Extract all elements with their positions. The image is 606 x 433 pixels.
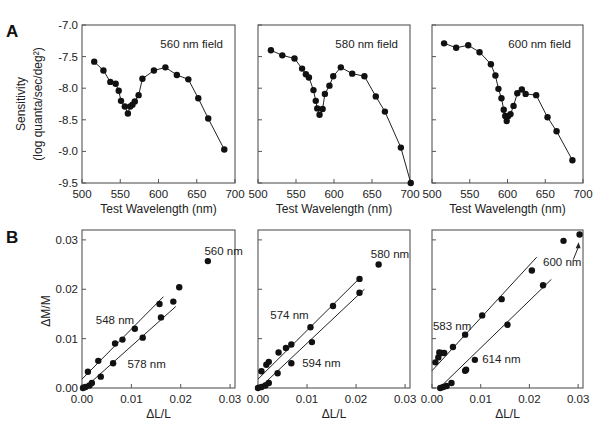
data-point: [330, 303, 336, 309]
data-point: [258, 368, 264, 374]
arrow-head-icon: [576, 242, 581, 248]
data-point: [522, 91, 528, 97]
x-tick-label: 0.02: [518, 393, 540, 405]
data-point: [132, 98, 138, 104]
sensitivity-line: [94, 62, 224, 150]
x-tick-label: 600: [498, 188, 517, 200]
chart-a-560nm-field: 500550600650700-7.0-7.5-8.0-8.5-9.0-9.5T…: [58, 19, 244, 216]
x-tick-label: 550: [111, 188, 130, 200]
field-title: 580 nm field: [335, 38, 398, 50]
x-tick-label: 600: [324, 188, 343, 200]
data-point: [472, 357, 478, 363]
x-tick-label: 500: [422, 188, 441, 200]
data-point: [504, 322, 510, 328]
row-b-ylabel: ΔM/M: [39, 295, 53, 326]
row-a-ylabel-line2: (log quanta/sec/deg²): [31, 47, 45, 160]
x-tick-label: 500: [72, 188, 91, 200]
x-tick-label: 650: [362, 188, 381, 200]
chart-a-600nm-field: 500550600650700Test Wavelength (nm)600 n…: [422, 25, 592, 216]
series-annotation: 583 nm: [433, 320, 471, 332]
data-point: [498, 296, 504, 302]
data-point: [125, 110, 131, 116]
series-annotation: 548 nm: [96, 314, 134, 326]
data-point: [306, 74, 312, 80]
data-point: [356, 276, 362, 282]
data-point: [398, 144, 404, 150]
x-tick-label: 0.02: [170, 393, 192, 405]
x-tick-label: 700: [225, 188, 244, 200]
data-point: [375, 261, 381, 267]
y-tick-label: -9.5: [58, 177, 78, 189]
data-point: [170, 298, 176, 304]
x-tick-label: 0.03: [567, 393, 589, 405]
data-point: [158, 314, 164, 320]
data-point: [205, 258, 211, 264]
x-tick-label: 650: [187, 188, 206, 200]
data-point: [132, 326, 138, 332]
data-point: [510, 103, 516, 109]
x-tick-label: 0.01: [470, 393, 492, 405]
data-point: [112, 340, 118, 346]
x-tick-label: 0.00: [71, 393, 93, 405]
row-a-ylabel-line1: Sensitivity: [14, 77, 28, 131]
x-tick-label: 0.01: [296, 393, 318, 405]
series-annotation: 594 nm: [302, 357, 340, 369]
data-point: [100, 67, 106, 73]
series-annotation: 614 nm: [482, 353, 520, 365]
data-point: [288, 341, 294, 347]
y-tick-label: -7.5: [58, 51, 78, 63]
data-point: [448, 380, 454, 386]
data-point: [299, 65, 305, 71]
panel-letter-a: A: [6, 22, 18, 41]
figure: A B Sensitivity (log quanta/sec/deg²) ΔM…: [0, 0, 606, 433]
x-tick-label: 600: [149, 188, 168, 200]
data-point: [176, 284, 182, 290]
field-title: 560 nm field: [160, 38, 223, 50]
data-point: [162, 64, 168, 70]
data-point: [307, 324, 313, 330]
data-point: [544, 114, 550, 120]
x-tick-label: 0.03: [394, 393, 416, 405]
data-point: [316, 112, 322, 118]
data-point: [492, 72, 498, 78]
data-point: [569, 157, 575, 163]
x-axis-label: ΔL/L: [495, 407, 520, 421]
data-point: [118, 98, 124, 104]
x-tick-label: 650: [536, 188, 555, 200]
data-point: [498, 95, 504, 101]
data-point: [116, 88, 122, 94]
chart-b-580nm: 0.000.010.020.03ΔL/L580 nm574 nm594 nm: [247, 230, 416, 421]
x-tick-label: 0.00: [421, 393, 443, 405]
data-point: [140, 334, 146, 340]
data-point: [540, 282, 546, 288]
chart-b-600nm: 0.000.010.020.03ΔL/L600 nm583 nm614 nm: [421, 230, 590, 421]
data-point: [495, 86, 501, 92]
data-point: [453, 45, 459, 51]
data-point: [156, 301, 162, 307]
y-tick-label: 0.02: [56, 283, 78, 295]
data-point: [488, 61, 494, 67]
data-point: [112, 81, 118, 87]
data-point: [373, 93, 379, 99]
data-point: [268, 47, 274, 53]
series-annotation: 574 nm: [270, 309, 308, 321]
data-point: [382, 108, 388, 114]
fit-line: [439, 279, 551, 388]
data-point: [291, 55, 297, 61]
data-point: [338, 64, 344, 70]
series-annotation: 600 nm: [543, 256, 581, 268]
chart-b-560nm: 0.000.010.020.030.000.010.020.03ΔL/L560 …: [56, 230, 243, 421]
data-point: [529, 267, 535, 273]
series-annotation: 578 nm: [127, 358, 165, 370]
data-point: [326, 82, 332, 88]
x-tick-label: 0.02: [345, 393, 367, 405]
data-point: [279, 52, 285, 58]
data-point: [476, 49, 482, 55]
x-tick-label: 0.03: [219, 393, 241, 405]
data-point: [465, 42, 471, 48]
data-point: [98, 373, 104, 379]
data-point: [533, 92, 539, 98]
y-tick-label: -8.0: [58, 82, 78, 94]
data-point: [85, 369, 91, 375]
data-point: [479, 312, 485, 318]
